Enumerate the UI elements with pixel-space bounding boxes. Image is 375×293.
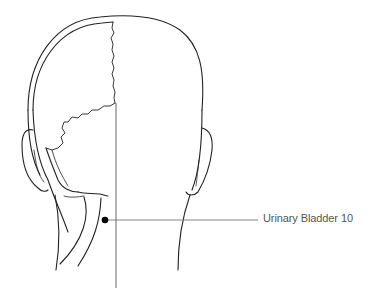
neck-right: [178, 195, 190, 270]
skull-outline: [33, 22, 113, 110]
acupoint-marker: [102, 217, 109, 224]
head-illustration: [0, 0, 375, 293]
lambdoid-suture: [46, 103, 115, 150]
acupoint-label: Urinary Bladder 10: [263, 212, 353, 224]
sagittal-suture: [111, 22, 115, 103]
head-outline: [28, 16, 203, 110]
neck-muscle-left: [60, 197, 86, 264]
head-diagram: Urinary Bladder 10: [0, 0, 375, 293]
